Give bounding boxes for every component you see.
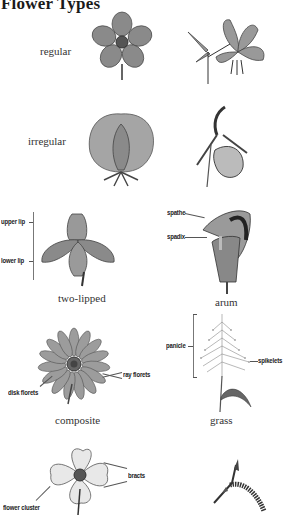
caption-arum: arum [215,296,238,308]
grass-illustration [195,312,265,412]
callout-ray-florets: ray florets [123,370,150,379]
row-label-regular: regular [40,45,71,57]
row-label-irregular: irregular [28,135,66,147]
two-lipped-flower-illustration [38,210,118,290]
caption-grass: grass [210,414,233,426]
irregular-flower-illustration [86,110,156,190]
callout-flower-cluster: flower cluster [3,503,40,512]
lady-slipper-illustration [185,105,260,190]
page-title: Flower Types [1,0,100,14]
lily-illustration [178,12,268,87]
callout-panicle: panicle [166,341,186,350]
callout-lower-lip: lower lip [1,256,24,265]
arum-flower-illustration [200,200,255,295]
callout-bracts: bracts [128,471,145,480]
callout-spathe: spathe [167,208,185,217]
caption-composite: composite [55,414,100,426]
caption-two-lipped: two-lipped [58,292,106,304]
regular-flower-illustration [92,12,152,82]
dogwood-flower-illustration [45,445,115,515]
catkin-illustration [208,457,268,513]
callout-spadix: spadix [167,232,185,241]
callout-upper-lip: upper lip [1,217,25,226]
composite-flower-illustration [38,328,118,408]
callout-disk-florets: disk florets [8,388,38,397]
